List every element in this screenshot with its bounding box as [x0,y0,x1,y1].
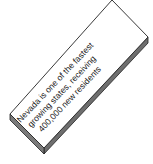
label-illustration: Nevada is one of the fastest growing sta… [0,0,153,164]
